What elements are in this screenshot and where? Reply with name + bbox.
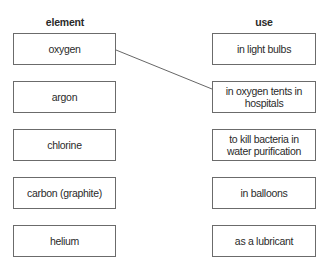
use-label: as a lubricant (235, 235, 293, 247)
element-label: oxygen (48, 43, 80, 55)
element-box-carbon-graphite[interactable]: carbon (graphite) (13, 177, 116, 209)
use-label: in light bulbs (237, 43, 291, 55)
use-label: in oxygen tents in hospitals (223, 85, 305, 109)
use-box-light-bulbs[interactable]: in light bulbs (212, 33, 316, 65)
element-box-argon[interactable]: argon (13, 81, 116, 113)
use-box-lubricant[interactable]: as a lubricant (212, 225, 316, 257)
element-box-chlorine[interactable]: chlorine (13, 129, 116, 161)
use-box-water-purification[interactable]: to kill bacteria in water purification (212, 129, 316, 161)
element-label: argon (52, 91, 77, 103)
use-column-header: use (212, 16, 316, 28)
element-box-oxygen[interactable]: oxygen (13, 33, 116, 65)
use-box-oxygen-tents[interactable]: in oxygen tents in hospitals (212, 81, 316, 113)
element-label: chlorine (47, 139, 81, 151)
element-column-header: element (13, 16, 117, 28)
use-label: to kill bacteria in water purification (217, 133, 311, 157)
element-label: helium (50, 235, 79, 247)
use-box-balloons[interactable]: in balloons (212, 177, 316, 209)
use-label: in balloons (241, 187, 288, 199)
element-box-helium[interactable]: helium (13, 225, 116, 257)
element-label: carbon (graphite) (27, 187, 102, 199)
connector-oxygen-to-oxygen-tents (116, 50, 212, 89)
